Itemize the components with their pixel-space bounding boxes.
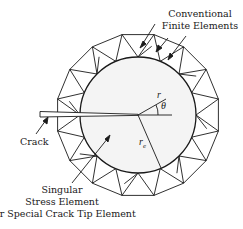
singular-label-line2: Stress Element xyxy=(0,196,130,208)
conventional-elements-label: Conventional Finite Elements xyxy=(160,8,240,32)
singular-label-line1: Singular xyxy=(0,184,130,196)
r-symbol: r xyxy=(157,89,161,100)
re-symbol: re xyxy=(139,136,146,150)
crack-label: Crack xyxy=(20,136,49,148)
theta-symbol: θ xyxy=(161,100,166,111)
singular-element-label: Singular Stress Element or Special Crack… xyxy=(0,184,130,220)
conventional-label-line2: Finite Elements xyxy=(160,20,240,32)
conventional-label-line1: Conventional xyxy=(160,8,240,20)
re-symbol-subscript: e xyxy=(143,142,146,150)
singular-label-line3: or Special Crack Tip Element xyxy=(0,208,130,220)
